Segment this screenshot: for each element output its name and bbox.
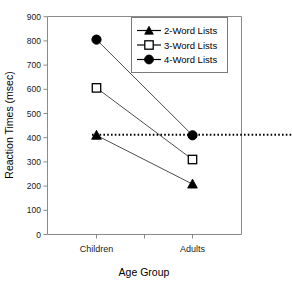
marker-4-word-children [92,35,101,44]
y-tick-label: 500 [27,109,41,119]
legend-item-2-word[interactable]: 2-Word Lists [137,25,217,36]
x-tick-label-children: Children [80,244,114,254]
y-tick-label: 700 [27,60,41,70]
legend-marker-filled-circle-icon [145,55,154,64]
legend-item-3-word[interactable]: 3-Word Lists [137,40,217,51]
legend-item-4-word[interactable]: 4-Word Lists [137,54,217,65]
legend-label-2-word: 2-Word Lists [164,25,217,36]
series-line-3-word [97,88,193,160]
legend-label-3-word: 3-Word Lists [164,40,217,51]
marker-4-word-adults [188,131,197,140]
legend-label-4-word: 4-Word Lists [164,54,217,65]
y-tick-label: 300 [27,157,41,167]
y-tick-label: 200 [27,181,41,191]
series-line-2-word [97,135,193,184]
x-axis-ticks [97,235,193,239]
y-axis-ticks [44,17,48,235]
chart-legend: 2-Word Lists 3-Word Lists 4-Word Lists [132,18,228,73]
reaction-times-line-chart: 0 100 200 300 400 500 600 700 800 900 Re… [0,0,292,287]
y-tick-label: 0 [36,230,41,240]
y-tick-label: 100 [27,205,41,215]
x-tick-label-adults: Adults [180,244,206,254]
x-axis-title: Age Group [119,266,170,278]
y-axis-tick-labels: 0 100 200 300 400 500 600 700 800 900 [27,12,41,240]
y-tick-label: 600 [27,84,41,94]
legend-marker-open-square-icon [145,41,153,49]
marker-3-word-adults [188,155,196,163]
y-tick-label: 800 [27,36,41,46]
marker-2-word-adults [188,179,198,188]
marker-3-word-children [92,84,100,92]
y-tick-label: 900 [27,12,41,22]
y-axis-title: Reaction Times (msec) [3,71,15,178]
y-tick-label: 400 [27,133,41,143]
chart-figure: 0 100 200 300 400 500 600 700 800 900 Re… [0,0,292,287]
